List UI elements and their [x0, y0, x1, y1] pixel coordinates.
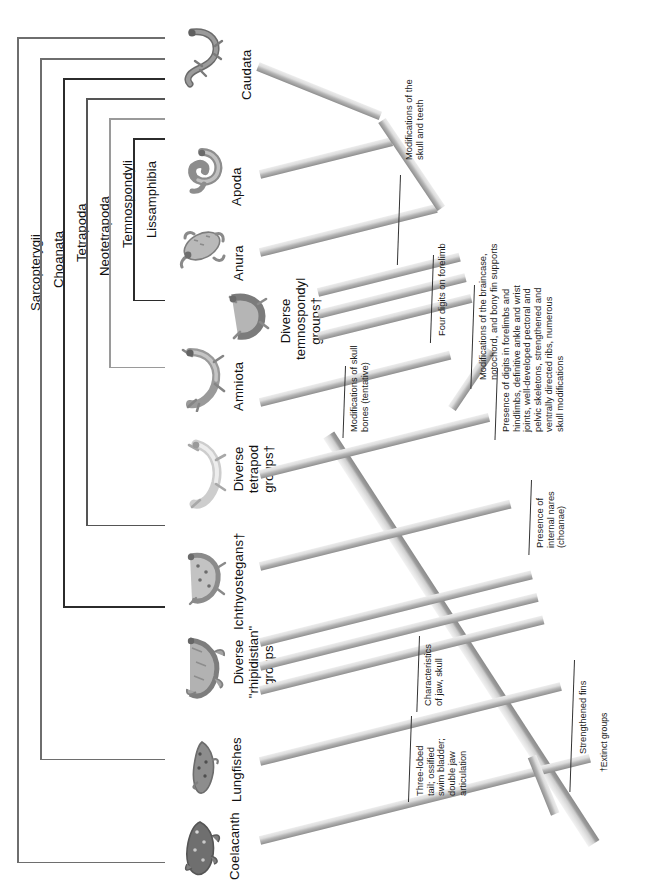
c1-l2: skull and teeth [415, 10, 426, 160]
branch-diverse-tetrapod-groups [259, 413, 490, 479]
character-label-three-lobed-tail: Three-lobed tail; ossified swim bladder;… [415, 716, 469, 796]
taxon-label-temnospondyl-groups: Diverse temnospondyl groups† [278, 282, 323, 360]
taxon-label-ichthyostegans: Ichthyostegans† [232, 532, 247, 630]
temnospondyl-label-l1: Diverse [278, 282, 293, 360]
branch-anura [259, 204, 438, 257]
c4-l2: bones (tentative) [360, 302, 371, 432]
temnospondyl-icon [222, 288, 272, 346]
character-label-internal-nares: Presence of internal nares (choanae) [535, 458, 567, 548]
cladogram-figure: Sarcopterygii Choanata Tetrapoda Neotetr… [0, 0, 649, 887]
taxon-label-caudata: Caudata [240, 49, 255, 100]
c5-l6: skull modifications [555, 224, 566, 432]
character-label-strengthened-fins: Strengthened fins [578, 681, 589, 755]
rhipidistian-label-l1: Diverse [231, 624, 246, 700]
taxon-label-coelacanth: Coelacanth [228, 812, 243, 880]
footnote-extinct-groups: †Extinct groups [600, 713, 610, 772]
c6-l3: (choanae) [556, 458, 567, 548]
character-label-jaw-skull-characteristics: Characteristics of jaw, skull [423, 604, 444, 706]
character-label-four-digits-forelimb: Four digits on forelimb [437, 243, 448, 336]
character-label-modifications-skull-teeth: Modifications of the skull and teeth [404, 10, 425, 160]
rhipidistian-icon [174, 632, 228, 702]
taxon-label-amniota: Amniota [232, 362, 247, 411]
taxon-label-lungfishes: Lungfishes [230, 737, 245, 802]
c5-l5: ventrally directed ribs, numerous [544, 224, 555, 432]
character-label-braincase-notochord-fin-supports: Modifications of the braincase, notochor… [478, 180, 499, 380]
branch-temnospondyl-1 [317, 294, 472, 341]
lizard-icon [174, 344, 228, 412]
caecilian-icon [180, 146, 224, 196]
c8-l5: articulation [458, 716, 469, 796]
salamander-icon [176, 26, 228, 88]
leader-line-c9 [569, 660, 575, 792]
character-label-digits-limbs-girdles: Presence of digits in forelimbs and hind… [501, 224, 565, 432]
taxon-label-anura: Anura [232, 245, 247, 281]
character-label-skull-bones-tentative: Modifications of skull bones (tentative) [349, 302, 370, 432]
branch-apoda [259, 137, 393, 179]
clade-label-lissamphibia: Lissamphibia [145, 161, 160, 238]
taxon-label-apoda: Apoda [230, 167, 245, 206]
tetrapodgrp-label-l1: Diverse [231, 438, 246, 500]
leader-line-c6 [528, 480, 532, 555]
c7-l2: of jaw, skull [434, 604, 445, 706]
temnospondyl-label-l2: temnospondyl [293, 282, 308, 360]
c3-l2: notochord, and bony fin supports [489, 180, 500, 380]
early-tetrapod-icon [176, 438, 228, 510]
frog-icon [176, 222, 228, 276]
coelacanth-icon [178, 816, 224, 878]
lungfish-icon [184, 736, 222, 798]
branch-caudata [256, 62, 382, 120]
ichthyostega-icon [176, 546, 228, 608]
